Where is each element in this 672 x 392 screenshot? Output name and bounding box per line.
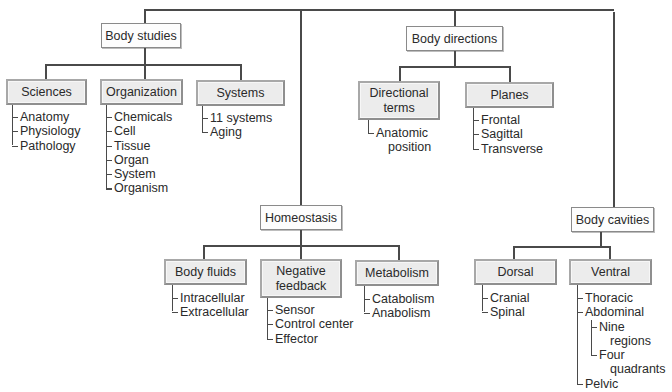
connector	[240, 64, 242, 80]
connector	[613, 12, 615, 207]
list-ventral: Thoracic Abdominal Nine regions Four qua…	[577, 291, 666, 391]
list-item-continuation: quadrants	[577, 362, 666, 376]
list-item: Chemicals	[106, 110, 172, 124]
list-item: Organ	[106, 153, 172, 167]
list-item: Tissue	[106, 139, 172, 153]
list-item-continuation: regions	[577, 334, 666, 348]
list-item: Aging	[202, 125, 272, 139]
list-item: Anatomy	[12, 110, 80, 124]
list-directional-terms: Anatomic position	[368, 126, 431, 155]
list-item: Physiology	[12, 124, 80, 138]
node-label: Dorsal	[497, 265, 533, 280]
connector	[144, 9, 146, 23]
node-label: Ventral	[591, 265, 630, 280]
node-label: Planes	[490, 88, 528, 103]
node-body-studies: Body studies	[101, 23, 181, 48]
connector	[300, 230, 302, 246]
list-item: Pathology	[12, 139, 80, 153]
list-item: Cell	[106, 124, 172, 138]
connector	[399, 66, 510, 68]
list-item-continuation: position	[368, 140, 431, 154]
connector	[45, 64, 241, 66]
list-item: Control center	[267, 317, 354, 331]
list-item: Cranial	[482, 291, 530, 305]
connector	[398, 245, 400, 261]
node-label: Organization	[106, 85, 177, 100]
connector	[509, 66, 511, 82]
list-metabolism: Catabolism Anabolism	[364, 292, 435, 321]
node-body-cavities: Body cavities	[571, 207, 654, 232]
node-organization: Organization	[100, 79, 183, 105]
list-item: Anabolism	[364, 306, 435, 320]
list-item: Effector	[267, 332, 354, 346]
list-negative-feedback: Sensor Control center Effector	[267, 303, 354, 346]
connector	[591, 327, 597, 328]
list-item: Anatomic	[368, 126, 431, 140]
list-item: Extracellular	[172, 305, 249, 319]
list-item: Sensor	[267, 303, 354, 317]
node-label: Negative feedback	[276, 264, 327, 294]
list-item: Sagittal	[473, 127, 543, 141]
list-item: Pelvic	[577, 377, 666, 391]
connector	[144, 48, 146, 65]
list-item: Organism	[106, 181, 172, 195]
list-systems: 11 systems Aging	[202, 111, 272, 140]
node-body-directions: Body directions	[406, 26, 503, 51]
list-item: Intracellular	[172, 291, 249, 305]
node-label: Body directions	[412, 32, 497, 46]
list-item: Abdominal	[577, 305, 666, 319]
connector	[300, 245, 302, 260]
list-item: 11 systems	[202, 111, 272, 125]
node-label: Body studies	[105, 29, 177, 43]
node-homeostasis: Homeostasis	[260, 205, 342, 230]
node-negative-feedback: Negative feedback	[260, 259, 342, 298]
connector	[144, 64, 146, 79]
list-item: Catabolism	[364, 292, 435, 306]
node-systems: Systems	[196, 80, 285, 106]
list-item: Thoracic	[577, 291, 666, 305]
connector	[144, 9, 614, 11]
list-item: Transverse	[473, 142, 543, 156]
list-body-fluids: Intracellular Extracellular	[172, 291, 249, 320]
connector	[203, 245, 205, 260]
node-sciences: Sciences	[6, 79, 87, 105]
node-dorsal: Dorsal	[474, 259, 557, 285]
body-concepts-tree-diagram: Body studies Sciences Anatomy Physiology…	[0, 0, 672, 392]
list-sciences: Anatomy Physiology Pathology	[12, 110, 80, 153]
connector	[399, 66, 401, 81]
node-ventral: Ventral	[569, 259, 652, 285]
node-label: Metabolism	[365, 266, 429, 281]
connector	[600, 232, 602, 247]
connector	[454, 51, 456, 67]
node-directional-terms: Directional terms	[358, 81, 440, 120]
connector	[45, 64, 47, 79]
connector	[454, 9, 456, 26]
connector	[300, 9, 302, 205]
list-planes: Frontal Sagittal Transverse	[473, 113, 543, 156]
node-label: Systems	[217, 86, 265, 101]
list-subitem: Four	[577, 348, 666, 362]
list-subitem: Nine	[577, 320, 666, 334]
connector	[513, 246, 515, 260]
node-label: Directional terms	[369, 86, 428, 116]
list-item: Spinal	[482, 305, 530, 319]
list-item: System	[106, 167, 172, 181]
list-item: Frontal	[473, 113, 543, 127]
node-metabolism: Metabolism	[355, 260, 439, 286]
node-label: Body cavities	[576, 213, 650, 227]
node-body-fluids: Body fluids	[164, 259, 247, 285]
node-planes: Planes	[465, 82, 554, 108]
node-label: Homeostasis	[265, 211, 337, 225]
list-organization: Chemicals Cell Tissue Organ System Organ…	[106, 110, 172, 196]
connector	[591, 355, 597, 356]
connector	[609, 246, 611, 260]
list-dorsal: Cranial Spinal	[482, 291, 530, 320]
connector	[513, 246, 610, 248]
node-label: Body fluids	[175, 265, 236, 280]
node-label: Sciences	[21, 85, 72, 100]
